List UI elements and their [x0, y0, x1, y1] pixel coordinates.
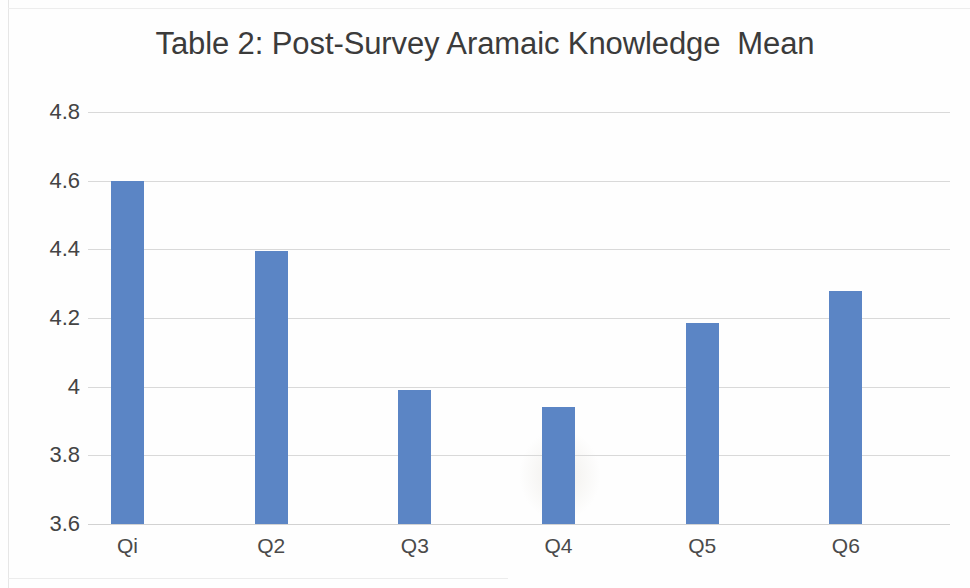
bar-Q6: [829, 291, 862, 524]
bar-Q2: [255, 251, 288, 524]
scan-edge-bottom: [8, 578, 508, 579]
bar-Q5: [686, 323, 719, 524]
y-axis-tick-label: 4.4: [16, 236, 80, 262]
y-axis-tick-label: 3.6: [16, 511, 80, 537]
bar-Qi: [111, 181, 144, 524]
x-axis-tick-label: Q2: [231, 534, 311, 558]
bar-series: [88, 112, 950, 524]
x-axis-tick-label: Q6: [806, 534, 886, 558]
y-axis-tick-label: 3.8: [16, 442, 80, 468]
y-axis-tick-label: 4.6: [16, 168, 80, 194]
y-axis-tick-label: 4.8: [16, 99, 80, 125]
y-axis: 4.84.64.44.243.83.6: [0, 112, 80, 524]
x-axis-tick-label: Q4: [519, 534, 599, 558]
y-axis-tick-label: 4: [16, 374, 80, 400]
chart-title: Table 2: Post-Survey Aramaic Knowledge M…: [0, 26, 970, 62]
scan-edge-top: [8, 8, 970, 9]
chart-screenshot: Table 2: Post-Survey Aramaic Knowledge M…: [0, 0, 970, 588]
bar-Q3: [398, 390, 431, 524]
bar-Q4: [542, 407, 575, 524]
gridline: [88, 524, 950, 525]
x-axis-tick-label: Q5: [662, 534, 742, 558]
x-axis: QiQ2Q3Q4Q5Q6: [88, 534, 950, 574]
x-axis-tick-label: Q3: [375, 534, 455, 558]
x-axis-tick-label: Qi: [88, 534, 168, 558]
y-axis-tick-label: 4.2: [16, 305, 80, 331]
